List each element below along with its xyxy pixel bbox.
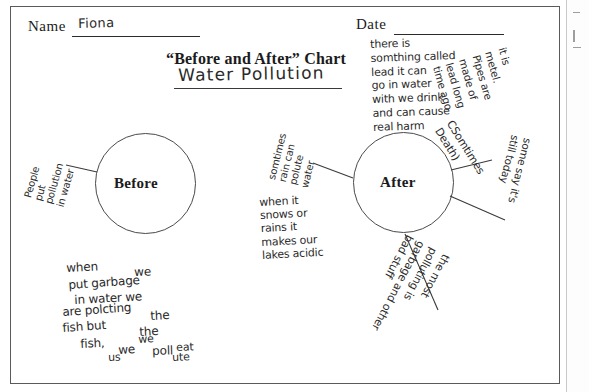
topic-rule — [174, 88, 342, 89]
edge-mark — [573, 12, 580, 13]
note-after-snow: when it snows or rains it makes our lake… — [259, 193, 324, 262]
note-before-garbage-l6: the — [150, 309, 170, 323]
note-before-garbage-l14: us — [108, 352, 121, 365]
name-handwritten-value: Fiona — [78, 16, 115, 31]
after-circle-label: After — [380, 174, 416, 191]
before-circle-label: Before — [114, 175, 158, 192]
note-before-garbage-l15: ute — [172, 351, 190, 364]
name-rule — [72, 36, 200, 37]
edge-mark — [573, 47, 581, 48]
edge-mark — [573, 30, 575, 42]
name-label: Name — [28, 18, 66, 35]
note-before-garbage-l11: we — [118, 343, 135, 357]
worksheet-scan: Name Date “Before and After” Chart Fiona… — [0, 0, 589, 392]
note-before-garbage-l12: poll — [152, 344, 173, 358]
date-label: Date — [356, 16, 386, 33]
topic-handwritten-value: Water Pollution — [178, 63, 325, 85]
scan-edge-strip — [566, 0, 589, 392]
note-before-garbage-l1: when — [66, 260, 98, 275]
note-before-garbage-l9: fish, — [80, 337, 105, 352]
